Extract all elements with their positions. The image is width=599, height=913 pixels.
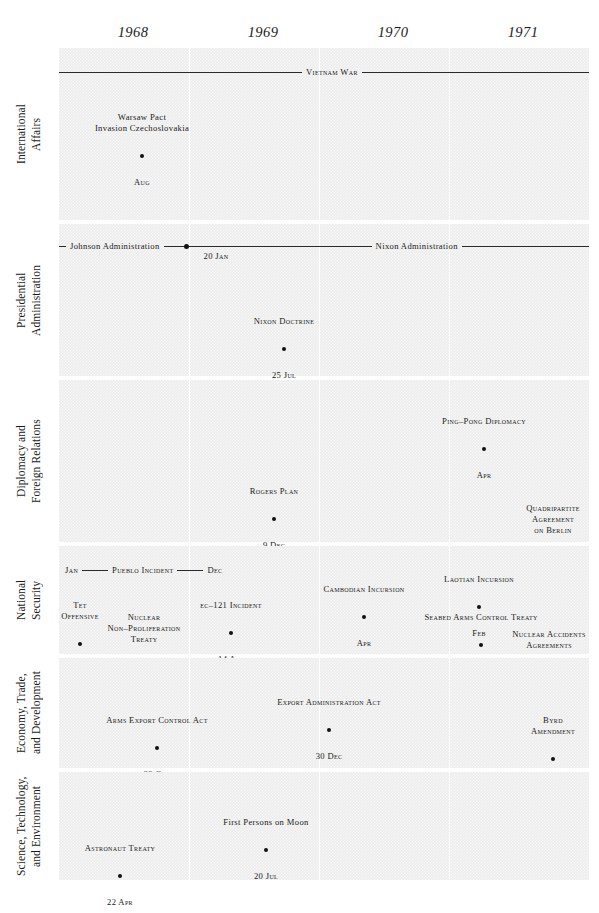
event-title: First Persons on Moon xyxy=(191,817,341,828)
event-title: Astronaut Treaty xyxy=(60,843,180,854)
event-dot-icon xyxy=(362,615,366,619)
year-label-1970: 1970 xyxy=(378,24,409,41)
event-export-administration-act: Export Administration Act 30 Dec xyxy=(239,679,419,779)
event-dot-icon xyxy=(482,447,486,451)
year-label-1968: 1968 xyxy=(118,24,149,41)
event-title: ec–121 Incident xyxy=(176,600,286,611)
gridline-1969 xyxy=(189,380,190,542)
event-title: Nixon Doctrine xyxy=(209,316,359,327)
event-title: Laotian Incursion xyxy=(419,574,539,585)
event-astronaut-treaty: Astronaut Treaty 22 Apr xyxy=(60,825,180,913)
span-pueblo-incident: Jan Pueblo Incident Dec xyxy=(61,566,226,575)
event-ping-pong-diplomacy: Ping–Pong Diplomacy Apr xyxy=(399,398,569,498)
category-label-national-security: National Security xyxy=(14,546,44,654)
event-dot-icon xyxy=(327,728,331,732)
span-rule-left xyxy=(59,72,302,73)
event-title: Rogers Plan xyxy=(209,486,339,497)
year-label-1971: 1971 xyxy=(508,24,539,41)
event-dot-icon xyxy=(264,848,268,852)
event-dot-icon xyxy=(229,631,233,635)
event-dot-icon xyxy=(272,517,276,521)
span-label-end: Dec xyxy=(203,566,226,575)
category-label-diplomacy-foreign-relations: Diplomacy and Foreign Relations xyxy=(14,380,44,542)
span-label-pueblo-incident: Pueblo Incident xyxy=(108,566,177,575)
category-label-economy-trade-development: Economy, Trade, and Development xyxy=(14,658,44,768)
event-date: 20 Jul xyxy=(191,871,341,881)
span-rule-lead xyxy=(59,246,66,247)
span-rule-nixon-lead xyxy=(189,246,372,247)
span-vietnam-war: Vietnam War xyxy=(59,68,589,77)
span-rule-right xyxy=(177,570,203,571)
category-label-science-technology-environment: Science, Technology, and Environment xyxy=(14,772,44,880)
event-warsaw-pact-invasion: Warsaw Pact Invasion Czechoslovakia Aug xyxy=(52,94,232,205)
event-first-persons-on-moon: First Persons on Moon 20 Jul xyxy=(191,799,341,899)
event-dot-icon xyxy=(118,874,122,878)
event-title: Quadripartite Agreement on Berlin xyxy=(503,503,599,535)
gridline-1969 xyxy=(189,772,190,880)
category-label-international-affairs: International Affairs xyxy=(14,48,44,220)
span-rule-left xyxy=(82,570,108,571)
span-rule-nixon-tail xyxy=(462,246,589,247)
event-title: Export Administration Act xyxy=(239,697,419,708)
event-dot-icon xyxy=(551,757,555,761)
year-label-1969: 1969 xyxy=(248,24,279,41)
administration-transition-date: 20 Jan xyxy=(204,251,229,261)
event-date: 22 Apr xyxy=(60,897,180,907)
event-title: Ping–Pong Diplomacy xyxy=(399,416,569,427)
plot-area: Vietnam War Warsaw Pact Invasion Czechos… xyxy=(59,48,589,880)
timeline-chart: 1968 1969 1970 1971 International Affair… xyxy=(0,0,599,913)
span-label-nixon-administration: Nixon Administration xyxy=(372,242,462,251)
span-label-start: Jan xyxy=(61,566,82,575)
category-label-presidential-administration: Presidential Administration xyxy=(14,224,44,376)
span-rule-right xyxy=(362,72,589,73)
span-label-johnson-administration: Johnson Administration xyxy=(66,242,164,251)
event-dot-icon xyxy=(282,347,286,351)
event-dot-icon xyxy=(78,642,82,646)
event-date: 30 Dec xyxy=(239,751,419,761)
event-dot-icon xyxy=(140,154,144,158)
gridline-1971 xyxy=(449,772,450,880)
gridline-1971 xyxy=(449,658,450,768)
span-rule-johnson-tail xyxy=(164,246,184,247)
event-title: Warsaw Pact Invasion Czechoslovakia xyxy=(52,112,232,134)
event-title: Nuclear Accidents Agreements xyxy=(494,629,599,651)
event-date: Aug xyxy=(52,177,232,187)
span-administrations: Johnson Administration Nixon Administrat… xyxy=(59,242,589,251)
event-date: 25 Jul xyxy=(209,370,359,380)
event-title: Arms Export Control Act xyxy=(72,715,242,726)
event-dot-icon xyxy=(155,746,159,750)
event-dot-icon xyxy=(479,643,483,647)
event-title: Byrd Amendment xyxy=(508,715,598,737)
event-date: Apr xyxy=(399,470,569,480)
span-label-vietnam-war: Vietnam War xyxy=(302,68,362,77)
